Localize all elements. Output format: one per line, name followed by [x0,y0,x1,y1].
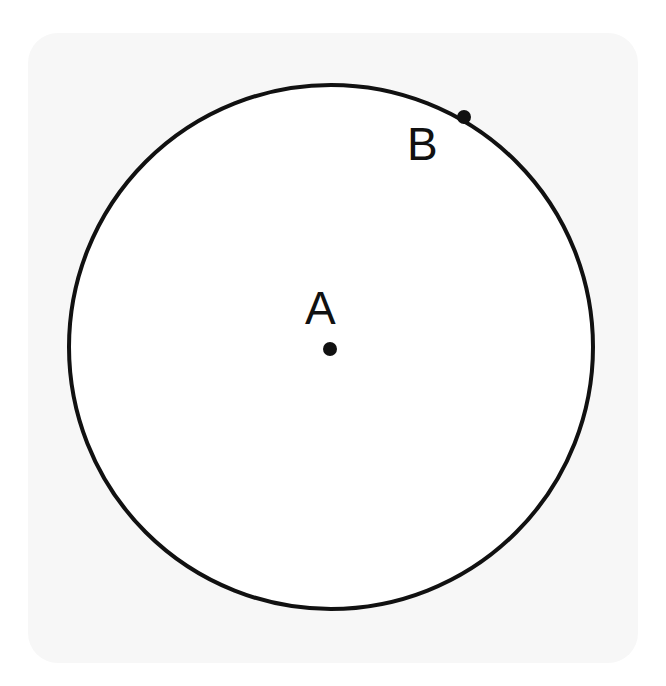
point-a [323,342,337,356]
point-b-label: B [407,118,438,170]
geometry-diagram: A B [0,0,666,686]
point-a-label: A [305,282,336,334]
point-b [457,110,471,124]
